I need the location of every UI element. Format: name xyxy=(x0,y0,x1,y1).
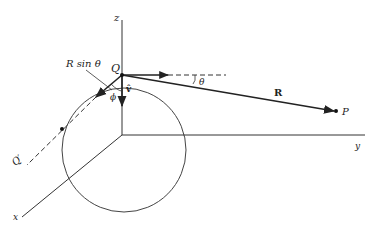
point-q xyxy=(120,73,124,77)
sphere-circle xyxy=(62,88,186,212)
v-hat-label: v̂ xyxy=(125,84,132,94)
p-label: P xyxy=(341,106,349,117)
r-sin-theta-label: R sin θ xyxy=(65,58,101,69)
point-p xyxy=(334,109,338,113)
theta-label: θ xyxy=(199,77,205,87)
q-q-prime-dashed-line xyxy=(27,97,96,165)
moving-charge-diagram: z y x Q Q′ P R R sin θ θ ϕ v̂ xyxy=(0,0,373,228)
y-axis-label: y xyxy=(354,141,361,151)
x-axis-label: x xyxy=(13,212,18,222)
r-vector xyxy=(122,75,334,111)
x-axis xyxy=(22,135,122,217)
z-axis-label: z xyxy=(113,12,120,23)
r-sin-theta-vector xyxy=(96,75,122,97)
phi-angle-arc xyxy=(111,84,122,91)
r-vector-label: R xyxy=(274,87,283,98)
q-label: Q xyxy=(111,62,120,75)
phi-label: ϕ xyxy=(110,92,116,102)
q-prime-label: Q′ xyxy=(10,152,26,168)
point-q-prime-marker xyxy=(60,127,64,131)
r-sin-theta-leader xyxy=(86,70,112,90)
theta-angle-arc xyxy=(193,75,195,84)
